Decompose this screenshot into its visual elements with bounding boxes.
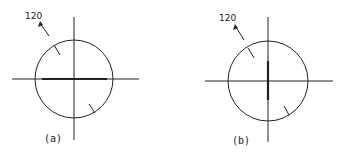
arrow-shaft-b [236,27,244,40]
caption-b: (b) [232,135,250,146]
tick-lower-right-b [284,106,289,115]
annotation-b: 120 [219,13,236,23]
panel-a [12,17,139,140]
figure: 120 (a) 120 (b) [0,0,338,156]
annotation-a: 120 [25,11,42,21]
tick-lower-right-a [89,104,95,113]
caption-a: (a) [44,133,62,144]
tick-upper-left-a [54,45,60,55]
tick-upper-left-b [248,48,254,58]
panel-b [205,17,333,142]
